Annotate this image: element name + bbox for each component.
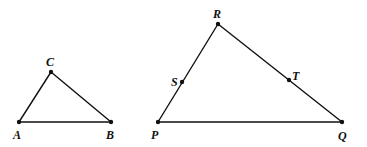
label-p: P: [151, 128, 159, 142]
point-s: [180, 80, 184, 84]
segment-bc: [51, 72, 111, 122]
point-c: [49, 70, 53, 74]
point-q: [340, 120, 344, 124]
triangle-abc: A B C: [12, 55, 114, 142]
segment-ca: [19, 72, 51, 122]
geometry-diagram: A B C P Q R S T: [0, 0, 367, 147]
diagram-canvas: A B C P Q R S T: [0, 0, 367, 147]
point-p: [156, 120, 160, 124]
point-t: [287, 78, 291, 82]
point-a: [17, 120, 21, 124]
segment-qr: [218, 24, 342, 122]
point-r: [216, 22, 220, 26]
point-b: [109, 120, 113, 124]
label-s: S: [171, 75, 178, 89]
label-r: R: [212, 7, 221, 21]
label-q: Q: [338, 129, 347, 143]
label-b: B: [105, 128, 114, 142]
label-a: A: [12, 128, 21, 142]
label-t: T: [292, 69, 300, 83]
label-c: C: [46, 55, 55, 69]
segment-rp: [158, 24, 218, 122]
triangle-pqr: P Q R S T: [151, 7, 347, 143]
